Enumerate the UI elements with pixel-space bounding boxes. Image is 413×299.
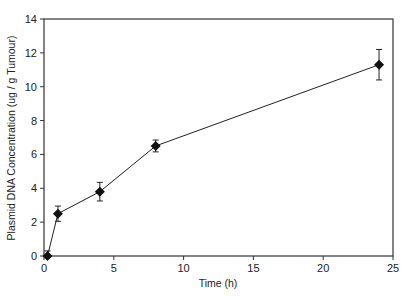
- series-line: [47, 65, 379, 256]
- data-series: [42, 49, 384, 261]
- x-axis-title: Time (h): [199, 277, 238, 289]
- diamond-marker: [53, 209, 63, 219]
- x-tick-label: 0: [41, 262, 47, 274]
- y-axis-ticks: 02468101214: [25, 13, 44, 262]
- x-tick-label: 25: [387, 262, 399, 274]
- y-tick-label: 14: [25, 13, 37, 25]
- plot-frame: [44, 19, 393, 256]
- x-tick-label: 15: [247, 262, 259, 274]
- x-tick-label: 20: [317, 262, 329, 274]
- y-axis-title: Plasmid DNA Concentration (ug / g Tumour…: [5, 36, 17, 241]
- y-tick-label: 6: [31, 148, 37, 160]
- line-chart: 0510152025 02468101214 Time (h) Plasmid …: [0, 0, 413, 299]
- y-tick-label: 8: [31, 115, 37, 127]
- plot-border: [44, 19, 393, 256]
- x-tick-label: 10: [177, 262, 189, 274]
- y-tick-label: 12: [25, 47, 37, 59]
- y-tick-label: 2: [31, 216, 37, 228]
- x-axis-ticks: 0510152025: [41, 256, 399, 274]
- y-tick-label: 10: [25, 81, 37, 93]
- x-tick-label: 5: [111, 262, 117, 274]
- y-tick-label: 4: [31, 182, 37, 194]
- y-tick-label: 0: [31, 250, 37, 262]
- diamond-marker: [374, 60, 384, 70]
